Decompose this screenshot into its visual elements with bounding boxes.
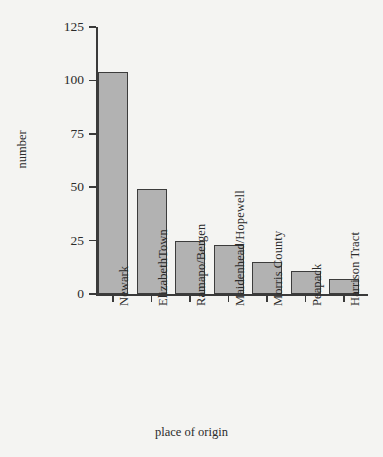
y-axis-tick <box>89 240 96 242</box>
bar-chart: 0255075100125 number NewarkElizabethTown… <box>0 0 383 457</box>
y-axis-tick-label: 125 <box>24 20 84 34</box>
x-axis-tick-label: Maidenhead/Hopewell <box>234 190 247 306</box>
bar <box>98 72 128 294</box>
x-axis-tick-label: Morris County <box>272 231 285 306</box>
y-axis-tick-label: 50 <box>24 180 84 194</box>
y-axis-title: number <box>15 115 30 185</box>
x-axis-tick-label: ElizabethTown <box>157 229 170 306</box>
x-axis-tick <box>305 295 307 302</box>
x-axis-tick <box>112 295 114 302</box>
y-axis-tick <box>89 80 96 82</box>
y-axis-tick-label: 75 <box>24 127 84 141</box>
x-axis-title: place of origin <box>0 425 383 440</box>
y-axis-tick <box>89 186 96 188</box>
x-axis-tick-label: Peapack <box>311 264 324 306</box>
x-axis-tick <box>343 295 345 302</box>
y-axis-tick-label: 0 <box>24 287 84 301</box>
x-axis-tick-label: Ramapo/Bergen <box>195 224 208 306</box>
x-axis-tick <box>266 295 268 302</box>
x-axis-tick-label: Harrison Tract <box>349 232 362 306</box>
y-axis-tick-label: 25 <box>24 234 84 248</box>
y-axis-tick <box>89 133 96 135</box>
x-axis-tick-label: Newark <box>118 266 131 306</box>
x-axis-line <box>96 294 368 296</box>
y-axis-tick-label: 100 <box>24 73 84 87</box>
y-axis-tick <box>89 26 96 28</box>
x-axis-tick <box>228 295 230 302</box>
y-axis-tick <box>89 293 96 295</box>
x-axis-tick <box>151 295 153 302</box>
x-axis-tick <box>189 295 191 302</box>
